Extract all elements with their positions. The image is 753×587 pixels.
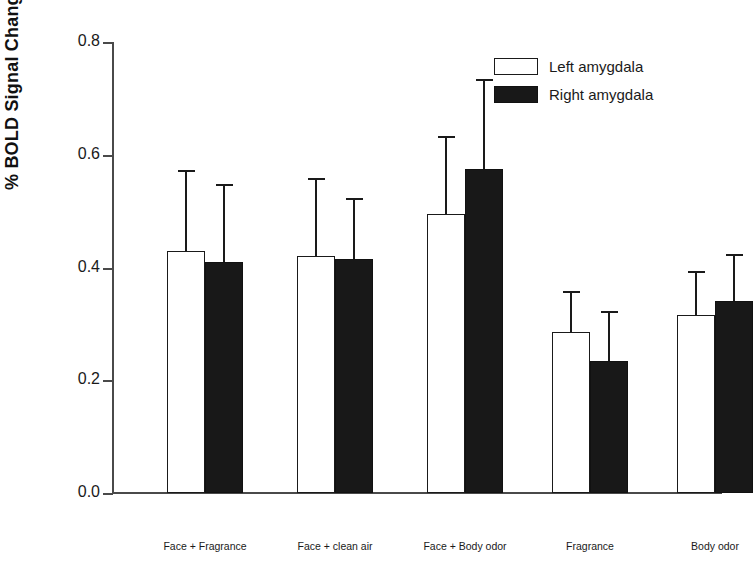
error-cap-left <box>178 170 195 172</box>
error-bar-right <box>608 313 610 361</box>
bar-right <box>590 361 628 493</box>
error-bar-right <box>223 186 225 262</box>
bar-right <box>715 301 753 493</box>
x-tick-label: Face + clean air <box>298 540 373 552</box>
error-cap-left <box>438 136 455 138</box>
y-axis-title: % BOLD Signal Change <box>2 0 23 190</box>
error-cap-right <box>601 311 618 313</box>
error-bar-right <box>483 81 485 168</box>
bar-group <box>167 42 243 493</box>
chart-legend: Left amygdalaRight amygdala <box>494 58 653 114</box>
error-bar-right <box>733 256 735 301</box>
bar-right <box>335 259 373 493</box>
error-bar-left <box>570 293 572 332</box>
legend-label: Left amygdala <box>549 59 643 74</box>
bar-left <box>297 256 335 493</box>
x-tick-label: Fragrance <box>566 540 614 552</box>
error-cap-right <box>476 79 493 81</box>
error-cap-left <box>563 291 580 293</box>
x-tick-label: Body odor <box>691 540 739 552</box>
bar-left <box>552 332 590 493</box>
error-bar-left <box>695 273 697 315</box>
y-tick-label: 0.6 <box>54 145 100 163</box>
error-cap-right <box>726 254 743 256</box>
error-cap-left <box>308 178 325 180</box>
bar-left <box>167 251 205 493</box>
y-tick-label: 0.8 <box>54 32 100 50</box>
legend-label: Right amygdala <box>549 87 653 102</box>
legend-swatch-black <box>494 86 538 103</box>
error-bar-left <box>185 172 187 251</box>
error-bar-left <box>445 138 447 214</box>
bar-left <box>427 214 465 493</box>
x-tick-label: Face + Body odor <box>423 540 506 552</box>
error-cap-right <box>216 184 233 186</box>
bar-left <box>677 315 715 493</box>
y-tick-label: 0.2 <box>54 370 100 388</box>
legend-item: Left amygdala <box>494 58 653 75</box>
bar-group <box>297 42 373 493</box>
y-tick-label: 0.0 <box>54 483 100 501</box>
legend-swatch-white <box>494 58 538 75</box>
error-bar-right <box>353 200 355 259</box>
error-bar-left <box>315 180 317 256</box>
legend-item: Right amygdala <box>494 86 653 103</box>
y-tick-label: 0.4 <box>54 258 100 276</box>
bar-right <box>465 169 503 493</box>
bar-group <box>427 42 503 493</box>
bar-group <box>677 42 753 493</box>
x-tick-label: Face + Fragrance <box>163 540 246 552</box>
error-cap-right <box>346 198 363 200</box>
error-cap-left <box>688 271 705 273</box>
bar-right <box>205 262 243 493</box>
